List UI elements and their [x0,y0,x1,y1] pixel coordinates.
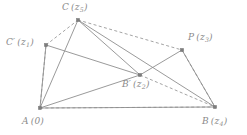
vertex-b-prime-label-arg: z [137,79,142,89]
vertex-p-label-subscript: 3 [205,36,209,43]
edge-a-b [40,107,215,108]
vertex-b-label: B (z4) [202,117,227,126]
vertex-c-prime-label: C′ (z1) [6,38,34,47]
edge-p-b [182,50,215,107]
vertex-a-label: A (0) [22,117,44,126]
vertex-c-prime-label-paren-close: ) [30,37,34,47]
edge-a-c [40,20,78,108]
vertex-p-label: P (z3) [188,33,213,42]
vertex-c-label: C (z5) [62,3,88,12]
edge-b-prime-p [140,50,182,75]
vertex-c-prime-label-subscript: 1 [26,41,30,48]
vertex-b-prime-marker [138,73,141,76]
vertex-p-marker [180,48,183,51]
edge-c-b-prime [78,20,140,75]
vertex-c-marker [76,18,79,21]
dashed-edge-c-p [78,20,182,50]
vertex-b-prime-label-subscript: 2 [142,83,146,90]
diagram-canvas [0,0,247,135]
vertex-b-label-arg: z [215,116,220,126]
vertex-a-label-main: A [22,116,29,126]
vertex-b-prime-label: B′ (z2) [122,80,150,89]
geometry-figure: C (z5)C′ (z1)P (z3)B′ (z2)A (0)B (z4) [0,0,247,135]
vertex-b-prime-label-main: B′ [122,79,131,89]
vertex-c-label-paren-close: ) [84,2,88,12]
dashed-edge-b-prime-b [140,75,215,107]
vertex-c-prime-marker [44,43,47,46]
vertex-b-marker [213,105,216,108]
vertex-b-prime-label-paren-close: ) [146,79,150,89]
vertex-b-label-paren-close: ) [224,116,228,126]
edge-c-prime-b-prime [46,45,140,75]
vertex-a-label-paren-close: ) [40,116,44,126]
vertex-b-label-main: B [202,116,209,126]
vertex-a-marker [38,106,41,109]
vertex-c-prime-label-main: C′ [6,37,15,47]
vertex-c-label-subscript: 5 [80,6,84,13]
dashed-edge-c-prime-c [46,20,78,45]
edge-a-c-prime [40,45,46,108]
vertex-b-label-subscript: 4 [220,120,224,127]
vertex-p-label-paren-close: ) [209,32,213,42]
